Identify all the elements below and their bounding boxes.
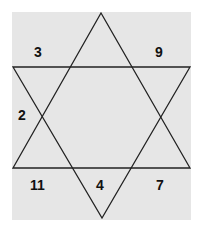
- label-top-right: 9: [155, 45, 163, 59]
- label-left: 2: [18, 108, 26, 122]
- label-bottom-left: 11: [30, 178, 45, 192]
- star-diagram: [0, 0, 201, 231]
- label-top-left: 3: [34, 45, 42, 59]
- label-bottom-right: 7: [156, 178, 164, 192]
- upward-triangle: [13, 13, 190, 168]
- downward-triangle: [13, 67, 190, 218]
- label-bottom-center: 4: [96, 178, 104, 192]
